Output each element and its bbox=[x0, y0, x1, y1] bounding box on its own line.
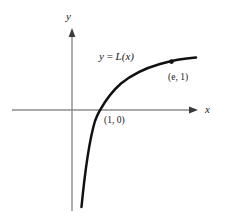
curve-equation-arg: (x) bbox=[122, 50, 134, 62]
graph-canvas bbox=[0, 0, 225, 222]
x-axis-arrowhead-icon bbox=[189, 107, 198, 114]
logarithm-graph-figure: y x y = L(x) (1, 0) (e, 1) bbox=[0, 0, 225, 222]
y-axis-arrowhead-icon bbox=[69, 28, 76, 37]
point-label-e-point: (e, 1) bbox=[168, 73, 188, 83]
x-axis-label: x bbox=[205, 104, 210, 115]
point-label-x-intercept: (1, 0) bbox=[104, 116, 125, 126]
curve-equation-label: y = L(x) bbox=[99, 51, 134, 62]
y-axis-label: y bbox=[66, 11, 71, 22]
point-marker-e1 bbox=[169, 59, 174, 64]
